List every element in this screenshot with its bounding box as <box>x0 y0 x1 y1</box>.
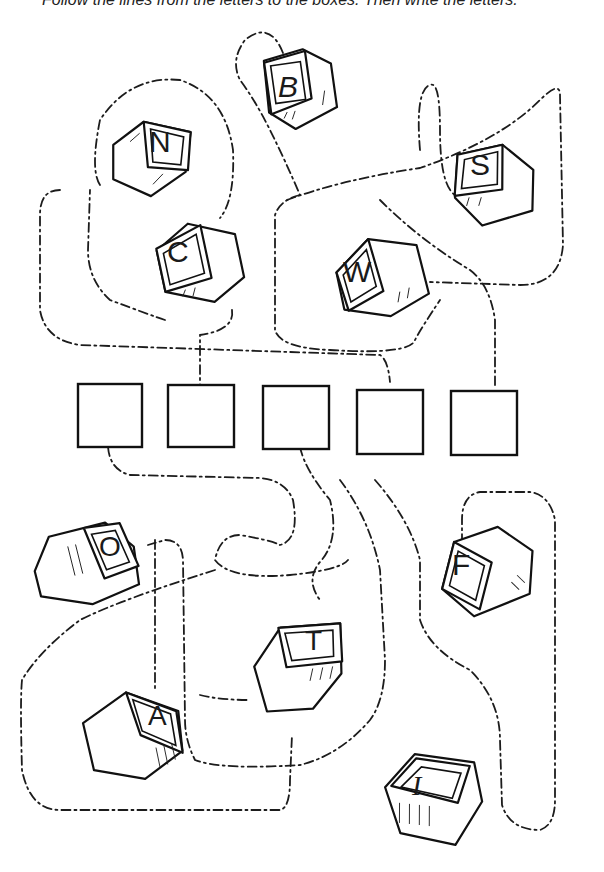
block-s <box>447 140 541 229</box>
block-b <box>261 46 339 133</box>
answer-box-3[interactable] <box>267 390 329 447</box>
block-letter-n: N <box>149 125 171 159</box>
block-t <box>250 621 348 714</box>
answer-box-4[interactable] <box>361 394 423 452</box>
answer-box-1[interactable] <box>82 388 142 445</box>
block-letter-i: I <box>412 770 421 802</box>
block-i <box>380 751 486 847</box>
block-letter-s: S <box>470 148 490 182</box>
block-o <box>27 517 144 615</box>
block-letter-o: O <box>99 531 121 563</box>
block-a <box>80 687 185 785</box>
block-f <box>427 514 548 625</box>
block-letter-c: C <box>167 235 189 269</box>
block-letter-t: T <box>305 625 322 657</box>
block-letter-a: A <box>148 700 167 732</box>
block-letter-b: B <box>278 70 298 104</box>
block-letter-f: F <box>452 548 470 582</box>
block-letter-w: W <box>343 255 371 289</box>
answer-box-5[interactable] <box>455 395 517 453</box>
answer-box-2[interactable] <box>172 389 234 445</box>
